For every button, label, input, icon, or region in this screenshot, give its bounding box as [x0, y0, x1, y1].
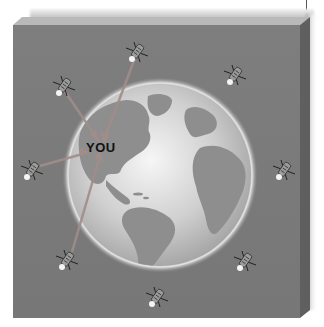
gps-diagram: YOU — [0, 0, 324, 327]
panel-top-face — [13, 17, 310, 25]
diagram-canvas — [0, 0, 324, 327]
panel-side-face — [300, 17, 310, 318]
user-location-label: YOU — [86, 140, 116, 155]
